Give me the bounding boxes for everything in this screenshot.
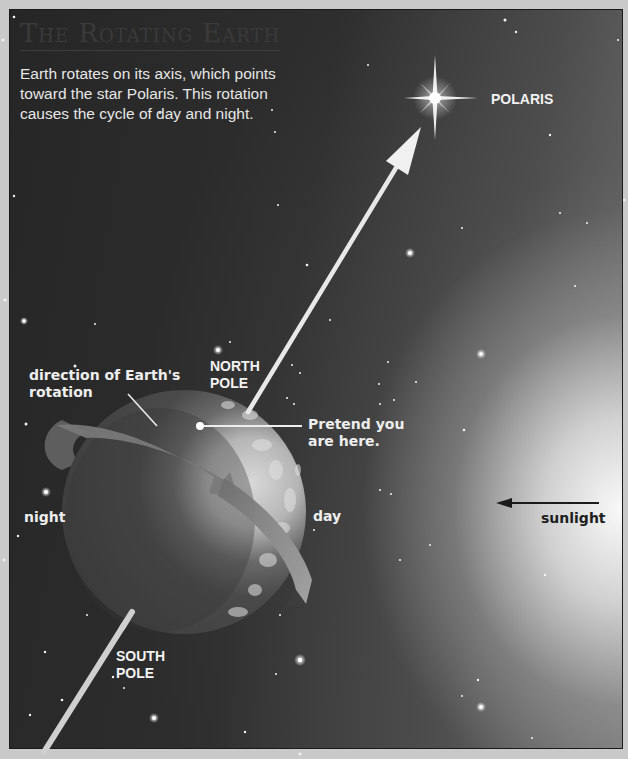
axis-arrow-icon: [248, 127, 421, 412]
south-pole-label-line-1: SOUTH: [116, 648, 165, 665]
north-pole-label: NORTH POLE: [210, 358, 260, 392]
night-label: night: [24, 509, 65, 526]
polaris-label: POLARIS: [491, 91, 553, 108]
pretend-label-line-1: Pretend you: [308, 416, 404, 433]
south-pole-label-line-2: POLE: [116, 665, 165, 682]
caption-line-3: causes the cycle of day and night.: [20, 104, 320, 124]
day-label: day: [313, 508, 341, 525]
rotation-label-line-1: direction of Earth's: [29, 367, 180, 384]
sunlight-label: sunlight: [541, 510, 606, 527]
pretend-label: Pretend you are here.: [308, 416, 404, 450]
rotation-label: direction of Earth's rotation: [29, 367, 180, 401]
north-pole-label-line-1: NORTH: [210, 358, 260, 375]
north-pole-label-line-2: POLE: [210, 375, 260, 392]
pretend-label-line-2: are here.: [308, 433, 404, 450]
polaris-star-icon: [404, 55, 478, 140]
south-pole-label: SOUTH POLE: [116, 648, 165, 682]
caption-line-1: Earth rotates on its axis, which points: [20, 64, 320, 84]
south-axis-shaft: [44, 612, 132, 752]
caption: Earth rotates on its axis, which points …: [20, 64, 320, 124]
caption-line-2: toward the star Polaris. This rotation: [20, 84, 320, 104]
diagram-title: The Rotating Earth: [20, 18, 280, 51]
sunlight-arrow-icon: [496, 498, 599, 508]
rotation-label-line-2: rotation: [29, 384, 180, 401]
